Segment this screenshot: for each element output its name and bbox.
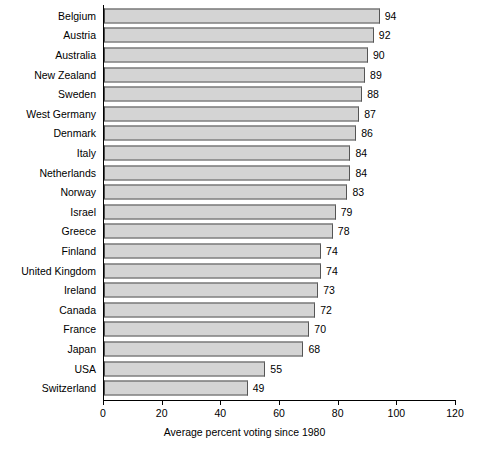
bar-row: Ireland73 <box>0 280 489 300</box>
x-tick-label: 120 <box>446 407 464 419</box>
x-tick <box>162 400 163 405</box>
bar-row: USA55 <box>0 359 489 379</box>
bar-row: Belgium94 <box>0 6 489 26</box>
bar <box>104 165 350 180</box>
bar <box>104 67 365 82</box>
bar <box>104 204 336 219</box>
bar-row: Australia90 <box>0 45 489 65</box>
bar-value-label: 55 <box>270 363 282 375</box>
category-label: United Kingdom <box>0 265 96 277</box>
bar-value-label: 68 <box>308 343 320 355</box>
bar-value-label: 84 <box>355 167 367 179</box>
bar <box>104 47 368 62</box>
x-tick <box>279 400 280 405</box>
x-tick-label: 100 <box>388 407 406 419</box>
bar-value-label: 79 <box>341 206 353 218</box>
bar <box>104 28 374 43</box>
bar-value-label: 74 <box>326 265 338 277</box>
bar-row: Austria92 <box>0 26 489 46</box>
clipped-caption <box>0 446 489 453</box>
bar <box>104 283 318 298</box>
bar <box>104 243 321 258</box>
bar-row: New Zealand89 <box>0 65 489 85</box>
bar-row: France70 <box>0 320 489 340</box>
bar <box>104 263 321 278</box>
bar-value-label: 83 <box>352 186 364 198</box>
category-label: Canada <box>0 304 96 316</box>
bar-row: West Germany87 <box>0 104 489 124</box>
x-tick <box>103 400 104 405</box>
bar-row: Netherlands84 <box>0 163 489 183</box>
x-tick-label: 0 <box>100 407 106 419</box>
bar-chart: Belgium94Austria92Australia90New Zealand… <box>0 0 489 453</box>
bar-row: Denmark86 <box>0 124 489 144</box>
category-label: Finland <box>0 245 96 257</box>
bar-value-label: 94 <box>385 10 397 22</box>
category-label: West Germany <box>0 108 96 120</box>
x-tick-label: 80 <box>332 407 344 419</box>
bar <box>104 87 362 102</box>
bar <box>104 8 380 23</box>
x-tick <box>338 400 339 405</box>
bar-value-label: 92 <box>379 29 391 41</box>
bar-value-label: 84 <box>355 147 367 159</box>
bar <box>104 341 303 356</box>
category-label: Greece <box>0 225 96 237</box>
bar-row: Italy84 <box>0 143 489 163</box>
x-tick <box>396 400 397 405</box>
bar-value-label: 78 <box>338 225 350 237</box>
x-tick <box>220 400 221 405</box>
category-label: Australia <box>0 49 96 61</box>
category-label: France <box>0 323 96 335</box>
bar <box>104 145 350 160</box>
bar-row: Norway83 <box>0 182 489 202</box>
category-label: Austria <box>0 29 96 41</box>
bar-value-label: 49 <box>253 382 265 394</box>
category-label: Belgium <box>0 10 96 22</box>
bar-row: Finland74 <box>0 241 489 261</box>
x-axis-title: Average percent voting since 1980 <box>0 426 489 438</box>
bar-value-label: 72 <box>320 304 332 316</box>
category-label: Netherlands <box>0 167 96 179</box>
bar <box>104 224 333 239</box>
bar <box>104 361 265 376</box>
bar-row: Sweden88 <box>0 84 489 104</box>
bar-value-label: 70 <box>314 323 326 335</box>
x-tick-label: 60 <box>273 407 285 419</box>
category-label: Israel <box>0 206 96 218</box>
bar-value-label: 86 <box>361 127 373 139</box>
bar-row: United Kingdom74 <box>0 261 489 281</box>
bar <box>104 322 309 337</box>
bar-value-label: 73 <box>323 284 335 296</box>
bar <box>104 126 356 141</box>
category-label: Sweden <box>0 88 96 100</box>
category-label: Ireland <box>0 284 96 296</box>
x-tick-label: 20 <box>156 407 168 419</box>
category-label: Japan <box>0 343 96 355</box>
bar-value-label: 90 <box>373 49 385 61</box>
category-label: Switzerland <box>0 382 96 394</box>
bar-value-label: 88 <box>367 88 379 100</box>
bar <box>104 106 359 121</box>
bar-value-label: 74 <box>326 245 338 257</box>
category-label: Italy <box>0 147 96 159</box>
bar <box>104 185 347 200</box>
x-tick <box>455 400 456 405</box>
bar-value-label: 89 <box>370 69 382 81</box>
category-label: Denmark <box>0 127 96 139</box>
bar <box>104 381 248 396</box>
bar-row: Japan68 <box>0 339 489 359</box>
bar-value-label: 87 <box>364 108 376 120</box>
bar-row: Greece78 <box>0 222 489 242</box>
category-label: USA <box>0 363 96 375</box>
bar-row: Switzerland49 <box>0 378 489 398</box>
x-tick-label: 40 <box>214 407 226 419</box>
bar <box>104 302 315 317</box>
category-label: Norway <box>0 186 96 198</box>
bar-row: Israel79 <box>0 202 489 222</box>
category-label: New Zealand <box>0 69 96 81</box>
plot-area: Belgium94Austria92Australia90New Zealand… <box>0 0 489 404</box>
bar-row: Canada72 <box>0 300 489 320</box>
